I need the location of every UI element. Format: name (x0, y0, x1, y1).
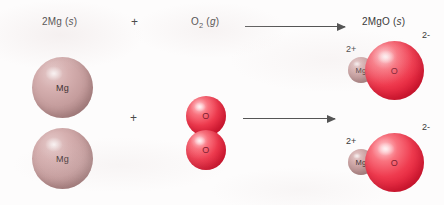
reaction-arrow-bottom (243, 114, 335, 123)
oxygen-molecule-symbol-1: O (186, 111, 226, 121)
magnesium-atom-sphere-1: Mg (32, 57, 93, 118)
magnesium-oxide-unit-2: 2+ 2- Mg O (340, 122, 444, 194)
oxygen-molecule-atom-2: O (186, 130, 226, 170)
magnesium-ion-charge-1: 2+ (346, 44, 356, 54)
magnesium-atom-sphere-2: Mg (32, 128, 93, 189)
oxide-ion-symbol-2: O (365, 158, 424, 168)
sphere-highlight (377, 50, 395, 64)
label-reactant-oxygen: O2 (g) (191, 16, 219, 30)
oxygen-molecule-symbol-2: O (186, 145, 226, 155)
oxide-ion-charge-1: 2- (422, 30, 430, 40)
arrow-shaft (243, 118, 335, 119)
magnesium-atom-symbol-1: Mg (32, 83, 93, 93)
magnesium-ion-charge-2: 2+ (346, 136, 356, 146)
oxide-ion-charge-2: 2- (422, 122, 430, 132)
plus-sign-top: + (131, 16, 138, 28)
label-product-text: 2MgO (s) (362, 16, 405, 27)
plus-sign-bottom: + (130, 112, 137, 124)
oxide-ion-sphere-1: O (365, 41, 424, 100)
magnesium-oxide-unit-1: 2+ 2- Mg O (340, 30, 444, 102)
sphere-highlight (45, 137, 63, 152)
arrow-head (327, 115, 336, 123)
oxide-ion-symbol-1: O (365, 66, 424, 76)
sphere-highlight (377, 142, 395, 156)
magnesium-atom-symbol-2: Mg (32, 154, 93, 164)
label-reactant-magnesium: 2Mg (s) (42, 16, 77, 27)
arrow-shaft (245, 26, 345, 27)
reaction-arrow-top (245, 22, 345, 31)
label-reactant-magnesium-text: 2Mg (s) (42, 16, 77, 27)
oxide-ion-sphere-2: O (365, 133, 424, 192)
label-product-magnesium-oxide: 2MgO (s) (362, 16, 405, 27)
oxygen-molecule: O O (186, 96, 228, 172)
sphere-highlight (45, 66, 63, 81)
label-reactant-oxygen-text: O2 (g) (191, 16, 219, 27)
chemical-equation-diagram: 2Mg (s) + O2 (g) 2MgO (s) Mg Mg + O O (0, 0, 444, 205)
